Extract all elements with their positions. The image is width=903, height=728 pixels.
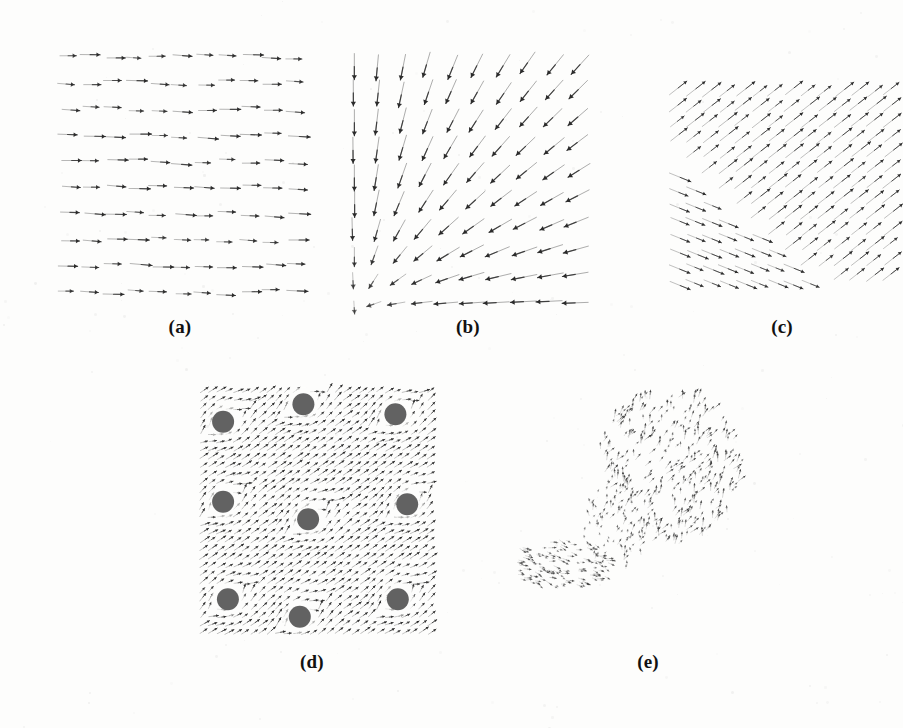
panel-c-motion-discontinuity-field [662, 88, 892, 288]
obstacle-disc [297, 508, 319, 530]
panel-label-b: (b) [438, 316, 498, 338]
obstacle-disc [292, 393, 314, 415]
vector-field-b [350, 52, 590, 314]
vector-field-c [669, 81, 902, 290]
panel-b-radial-sink-field [340, 40, 602, 315]
panel-label-c: (c) [752, 316, 812, 338]
panel-label-d: (d) [282, 651, 342, 673]
obstacle-disc [212, 411, 234, 433]
vector-field-d [200, 384, 437, 635]
obstacle-disc [289, 606, 311, 628]
panel-label-e: (e) [618, 651, 678, 673]
obstacle-disc [217, 588, 239, 610]
obstacle-disc [384, 403, 406, 425]
panel-a-uniform-translation-field [55, 42, 305, 304]
vector-field-e [517, 389, 745, 588]
obstacle-disc [387, 588, 409, 610]
obstacle-disc [396, 493, 418, 515]
panel-label-a: (a) [150, 316, 210, 338]
panel-e-sparse-measured-flow-field [520, 398, 760, 628]
figure-canvas: (a)(b)(c)(d)(e) [0, 0, 903, 728]
obstacle-disc [212, 491, 234, 513]
vector-field-a [58, 53, 311, 298]
panel-d-flow-around-obstacles-field [196, 388, 432, 638]
